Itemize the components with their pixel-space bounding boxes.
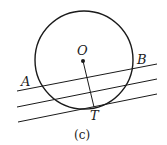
circle-tangent-diagram: O A B T (c) xyxy=(0,0,167,145)
parallel-line-middle xyxy=(17,79,157,107)
label-b: B xyxy=(136,52,147,67)
radius-ot xyxy=(83,61,94,107)
figure-caption: (c) xyxy=(74,128,90,142)
label-a: A xyxy=(20,74,30,89)
center-point xyxy=(81,59,85,63)
label-t: T xyxy=(90,108,100,123)
label-o: O xyxy=(77,43,88,58)
tangent-line xyxy=(18,94,157,122)
